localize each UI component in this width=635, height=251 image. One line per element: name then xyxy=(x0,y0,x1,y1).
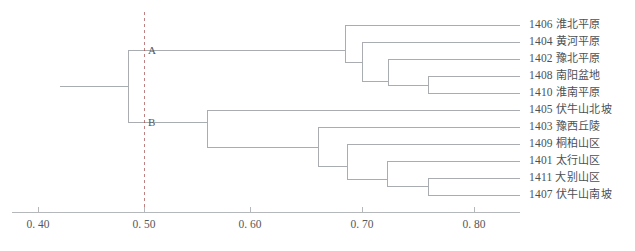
axis-tick-label: 0. 70 xyxy=(351,218,374,230)
dendrogram-branches xyxy=(12,25,520,212)
axis-tick-label: 0. 40 xyxy=(27,218,50,230)
dendrogram-canvas xyxy=(0,0,635,251)
axis-tick-label: 0. 50 xyxy=(133,218,156,230)
cluster-tag-A: A xyxy=(148,44,156,56)
dendrogram-figure: 1406 淮北平原1404 黄河平原1402 豫北平原1408 南阳盆地1410… xyxy=(0,0,635,251)
axis-tick-label: 0. 60 xyxy=(239,218,262,230)
cluster-tag-B: B xyxy=(148,116,155,128)
axis-tick-label: 0. 80 xyxy=(463,218,486,230)
